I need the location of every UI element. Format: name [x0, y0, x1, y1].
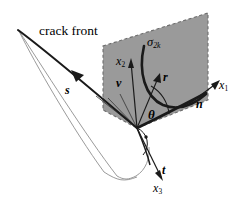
axis-x3 — [137, 128, 161, 177]
label-v: v — [116, 77, 121, 89]
label-crack-front: crack front — [39, 24, 98, 38]
label-theta: θ — [148, 108, 155, 121]
x3-subscript: 3 — [158, 187, 162, 196]
crack-front-diagram: crack front s σ2k x2 v r θ n x1 t x3 — [0, 0, 247, 203]
right-angle-dot — [144, 135, 147, 138]
crack-front-direction-arrowhead — [71, 70, 84, 82]
label-x1: x1 — [219, 79, 228, 91]
label-sigma-2k: σ2k — [147, 36, 161, 49]
label-n: n — [196, 98, 203, 110]
label-r: r — [163, 71, 168, 83]
label-s: s — [65, 84, 70, 96]
label-t: t — [162, 164, 165, 176]
label-x3: x3 — [153, 182, 162, 194]
normal-plane — [103, 13, 208, 128]
crack-front-lower-lip — [137, 128, 150, 165]
x2-subscript: 2 — [121, 60, 125, 69]
label-x2: x2 — [116, 55, 125, 67]
x1-subscript: 1 — [224, 84, 228, 93]
sigma-subscript: 2k — [153, 41, 160, 50]
diagram-canvas — [0, 0, 247, 203]
